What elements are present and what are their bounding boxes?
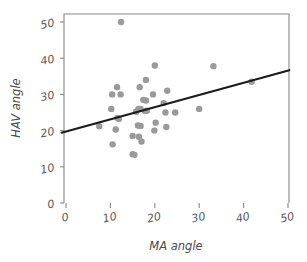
y-tick-label-40: 40 xyxy=(39,52,55,68)
data-point xyxy=(118,19,124,25)
data-point xyxy=(210,63,216,69)
data-point xyxy=(162,109,168,115)
data-point xyxy=(117,91,123,97)
data-point xyxy=(152,62,158,68)
y-axis-title: HAV angle xyxy=(9,78,23,137)
data-point xyxy=(109,141,115,147)
scatter-plot-svg: 01020304050 01020304050 MA angle HAV ang… xyxy=(0,0,307,262)
chart-figure: 01020304050 01020304050 MA angle HAV ang… xyxy=(0,0,307,262)
x-tick-label-40: 40 xyxy=(235,210,251,226)
x-axis-tick-labels: 01020304050 xyxy=(60,210,295,226)
data-point xyxy=(150,91,156,97)
y-tick-label-20: 20 xyxy=(39,125,55,141)
data-point xyxy=(131,152,137,158)
plot-frame xyxy=(64,14,289,203)
data-point xyxy=(137,123,143,129)
x-tick-label-50: 50 xyxy=(279,210,295,226)
data-point xyxy=(109,91,115,97)
x-tick-label-30: 30 xyxy=(190,210,206,226)
data-point xyxy=(152,119,158,125)
y-axis-ticks xyxy=(60,22,64,203)
y-axis-tick-labels: 01020304050 xyxy=(39,16,55,211)
y-tick-label-30: 30 xyxy=(39,89,55,105)
y-tick-label-0: 0 xyxy=(46,197,56,211)
data-point xyxy=(114,84,120,90)
x-tick-label-20: 20 xyxy=(146,210,162,226)
data-point xyxy=(143,97,149,103)
data-point xyxy=(108,106,114,112)
scatter-points-layer xyxy=(96,19,255,158)
x-axis-ticks xyxy=(66,203,288,208)
data-point xyxy=(172,109,178,115)
y-tick-label-10: 10 xyxy=(39,161,55,177)
data-point xyxy=(113,126,119,132)
data-point xyxy=(143,77,149,83)
x-tick-label-0: 0 xyxy=(60,210,70,224)
x-axis-title: MA angle xyxy=(149,239,202,253)
data-point xyxy=(164,88,170,94)
data-point xyxy=(129,133,135,139)
data-point xyxy=(151,127,157,133)
data-point xyxy=(137,84,143,90)
data-point xyxy=(196,106,202,112)
axis-frame xyxy=(64,14,289,203)
data-point xyxy=(163,124,169,130)
regression-line xyxy=(62,70,290,133)
data-point xyxy=(138,138,144,144)
regression-line-layer xyxy=(62,70,290,133)
x-tick-label-10: 10 xyxy=(101,210,117,226)
y-tick-label-50: 50 xyxy=(39,16,55,32)
